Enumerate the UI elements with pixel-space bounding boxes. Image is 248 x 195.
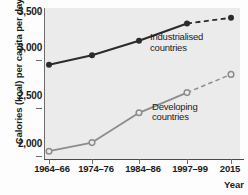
developing-countries-point-2 xyxy=(136,110,142,116)
x-tick-label-2015: 2015 xyxy=(220,163,240,174)
industrialised-series-label: Industrialised countries xyxy=(150,32,203,53)
developing-countries-point-0 xyxy=(46,148,52,154)
x-tick-label-1997-99: 1997–99 xyxy=(172,163,208,174)
industrialised-countries-point-1 xyxy=(89,52,95,58)
developing-label-line2: countries xyxy=(152,112,198,123)
x-axis-title: Year xyxy=(224,179,244,190)
x-tick-label-1964-66: 1964–66 xyxy=(34,163,70,174)
industrialised-line-dashed xyxy=(187,18,231,24)
developing-countries-point-4 xyxy=(228,72,234,78)
industrialised-countries-point-2 xyxy=(136,38,142,44)
developing-markers xyxy=(46,72,234,154)
developing-series-label: Developing countries xyxy=(152,102,198,123)
industrialised-countries-point-4 xyxy=(228,15,234,21)
industrialised-countries-point-3 xyxy=(184,21,190,27)
x-tick-label-1974-76: 1974–76 xyxy=(78,163,114,174)
industrialised-label-line1: Industrialised xyxy=(150,32,203,43)
developing-countries-point-3 xyxy=(184,90,190,96)
calorie-intake-line-chart: Calories (kcal) per capita per day 3,500… xyxy=(0,0,248,195)
developing-countries-point-1 xyxy=(89,140,95,146)
industrialised-label-line2: countries xyxy=(150,43,203,54)
developing-line-dashed xyxy=(187,74,231,92)
x-tick-label-1984-86: 1984–86 xyxy=(125,163,161,174)
industrialised-countries-point-0 xyxy=(46,62,52,68)
